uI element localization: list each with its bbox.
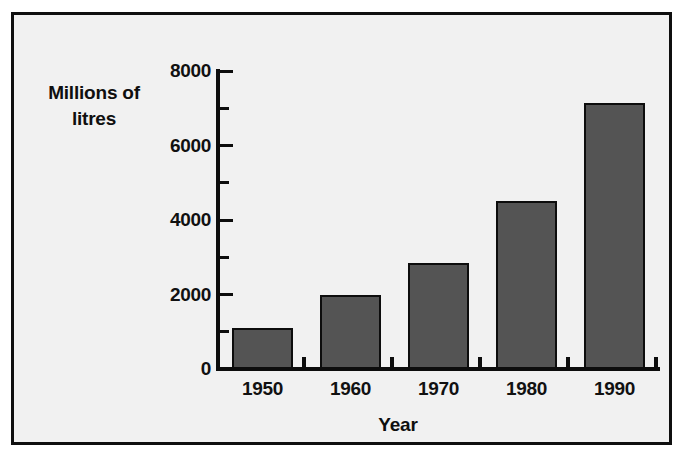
bar-1980[interactable] <box>496 201 557 369</box>
x-axis-tick <box>654 357 658 368</box>
y-axis-tick-major <box>220 144 233 147</box>
chart-figure: Millions of litres Year 0200040006000800… <box>0 0 687 455</box>
y-axis-tick-minor <box>220 181 229 184</box>
y-axis-title-line1: Millions of <box>48 82 140 103</box>
x-axis-tick <box>478 357 482 368</box>
bar-1990[interactable] <box>584 103 645 369</box>
x-axis-tick <box>566 357 570 368</box>
y-axis-tick-minor <box>220 107 229 110</box>
bar-1960[interactable] <box>320 295 381 370</box>
plot-area: Millions of litres Year 0200040006000800… <box>0 0 687 455</box>
y-axis-tick-major <box>220 293 233 296</box>
y-axis-tick-label: 8000 <box>145 61 211 80</box>
y-axis-tick-label: 2000 <box>145 285 211 304</box>
y-axis-title: Millions of litres <box>30 80 158 132</box>
x-axis-tick-label-1990: 1990 <box>575 378 655 400</box>
x-axis-tick-label-1950: 1950 <box>223 378 303 400</box>
x-axis-title: Year <box>338 414 458 436</box>
y-axis-title-line2: litres <box>30 106 158 132</box>
y-axis-tick-label: 0 <box>145 359 211 378</box>
x-axis-tick <box>390 357 394 368</box>
x-axis-tick-label-1960: 1960 <box>311 378 391 400</box>
x-axis-tick <box>302 357 306 368</box>
y-axis-tick-major <box>220 70 233 73</box>
y-axis-tick-minor <box>220 256 229 259</box>
y-axis-tick-minor <box>220 330 229 333</box>
y-axis-tick-label: 6000 <box>145 136 211 155</box>
y-axis-tick-major <box>220 219 233 222</box>
x-axis-tick-label-1980: 1980 <box>487 378 567 400</box>
bar-1950[interactable] <box>232 328 293 369</box>
y-axis-tick-label: 4000 <box>145 210 211 229</box>
bar-1970[interactable] <box>408 263 469 369</box>
x-axis-tick-label-1970: 1970 <box>399 378 479 400</box>
